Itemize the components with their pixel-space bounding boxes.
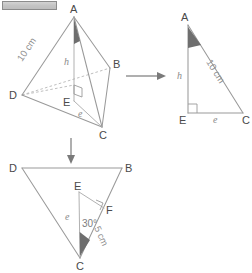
tetra-label-10cm: 10 cm — [15, 35, 39, 63]
base-label-5cm: 5 cm — [92, 224, 111, 247]
arrow-down-head — [67, 155, 75, 164]
rt-angle-shade-a — [188, 27, 201, 48]
base-angle-shade-c — [80, 232, 90, 256]
base-edge-dc — [22, 168, 80, 258]
figure-page: A B C D E 10 cm h e A E C 1 — [0, 0, 252, 273]
tetra-right-angle-marker-e — [74, 85, 82, 97]
rt-label-h: h — [177, 70, 182, 81]
arrow-right-head — [157, 72, 166, 80]
tetra-label-h: h — [64, 56, 69, 67]
base-segment-ec — [79, 192, 80, 258]
tetra-vertex-label-e: E — [63, 96, 70, 108]
base-triangle-group: D B C E F e 30° 5 cm — [9, 162, 132, 272]
tetra-vertex-label-d: D — [9, 89, 17, 101]
arrow-to-right-triangle — [126, 72, 166, 80]
tetra-edge-db-hidden — [22, 68, 110, 95]
tetra-vertex-label-c: C — [99, 129, 107, 141]
base-vertex-label-b: B — [125, 162, 132, 174]
rt-vertex-label-c: C — [242, 114, 250, 126]
tetra-label-e: e — [78, 108, 83, 119]
rt-vertex-label-a: A — [181, 11, 189, 23]
geometry-figure: A B C D E 10 cm h e A E C 1 — [0, 0, 252, 273]
tetra-edge-bc — [102, 68, 110, 127]
tetra-vertex-label-b: B — [113, 58, 120, 70]
right-triangle-group: A E C 10 cm h e — [177, 11, 250, 126]
tetra-edge-de-hidden — [22, 85, 74, 95]
tetrahedron-group: A B C D E 10 cm h e — [9, 3, 120, 141]
arrow-to-base-triangle — [67, 138, 75, 164]
tetra-angle-shade-a — [74, 19, 80, 44]
rt-label-e: e — [213, 114, 218, 125]
base-label-e: e — [65, 211, 70, 222]
tetra-vertex-label-a: A — [70, 3, 78, 15]
base-segment-ef — [79, 192, 104, 208]
tetra-edge-dc — [22, 95, 102, 127]
tetra-edge-ab — [74, 17, 110, 68]
rt-label-10cm: 10 cm — [204, 57, 227, 85]
base-vertex-label-d: D — [9, 162, 17, 174]
rt-right-angle-marker-e — [188, 104, 197, 113]
rt-vertex-label-e: E — [179, 114, 186, 126]
base-vertex-label-f: F — [106, 204, 113, 216]
base-vertex-label-c: C — [76, 260, 84, 272]
base-vertex-label-e: E — [74, 180, 81, 192]
